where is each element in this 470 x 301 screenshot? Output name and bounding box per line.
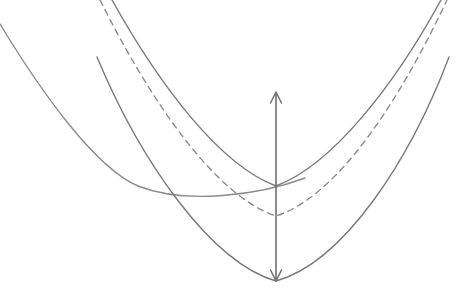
diagram-canvas — [0, 0, 470, 301]
diagram-background — [0, 0, 470, 301]
curves-diagram — [0, 0, 470, 301]
